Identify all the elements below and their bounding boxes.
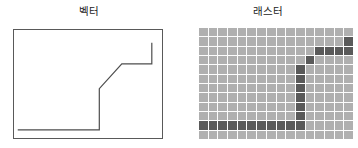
raster-cell-filled bbox=[257, 121, 266, 129]
raster-cell-filled bbox=[199, 121, 208, 129]
raster-cell-empty bbox=[209, 84, 218, 92]
raster-cell-empty bbox=[277, 65, 286, 73]
raster-cell-empty bbox=[277, 112, 286, 120]
raster-cell-empty bbox=[238, 65, 247, 73]
raster-cell-empty bbox=[325, 103, 334, 111]
raster-cell-empty bbox=[257, 131, 266, 139]
raster-cell-empty bbox=[306, 112, 315, 120]
raster-cell-empty bbox=[344, 65, 353, 73]
raster-cell-filled bbox=[315, 47, 324, 55]
raster-cell-empty bbox=[199, 84, 208, 92]
raster-cell-filled bbox=[247, 121, 256, 129]
raster-cell-empty bbox=[296, 56, 305, 64]
raster-cell-empty bbox=[335, 103, 344, 111]
raster-cell-empty bbox=[257, 37, 266, 45]
raster-cell-empty bbox=[257, 84, 266, 92]
raster-cell-empty bbox=[306, 65, 315, 73]
raster-cell-empty bbox=[286, 131, 295, 139]
raster-cell-empty bbox=[209, 75, 218, 83]
raster-cell-empty bbox=[218, 93, 227, 101]
raster-cell-empty bbox=[238, 131, 247, 139]
raster-cell-empty bbox=[325, 93, 334, 101]
raster-cell-empty bbox=[238, 75, 247, 83]
raster-cell-empty bbox=[209, 56, 218, 64]
raster-cell-filled bbox=[296, 65, 305, 73]
raster-cell-filled bbox=[296, 93, 305, 101]
raster-cell-empty bbox=[267, 28, 276, 36]
raster-cell-empty bbox=[218, 75, 227, 83]
raster-cell-empty bbox=[325, 28, 334, 36]
raster-cell-empty bbox=[286, 103, 295, 111]
raster-cell-empty bbox=[209, 112, 218, 120]
raster-cell-filled bbox=[277, 121, 286, 129]
raster-cell-empty bbox=[286, 112, 295, 120]
raster-cell-empty bbox=[325, 112, 334, 120]
raster-cell-filled bbox=[238, 121, 247, 129]
raster-cell-empty bbox=[238, 56, 247, 64]
raster-cell-empty bbox=[199, 28, 208, 36]
raster-cell-empty bbox=[344, 103, 353, 111]
raster-cell-empty bbox=[277, 28, 286, 36]
raster-cell-empty bbox=[325, 75, 334, 83]
raster-cell-empty bbox=[257, 56, 266, 64]
raster-cell-empty bbox=[286, 93, 295, 101]
raster-cell-empty bbox=[247, 84, 256, 92]
raster-cell-empty bbox=[267, 56, 276, 64]
raster-cell-empty bbox=[306, 103, 315, 111]
raster-cell-empty bbox=[335, 93, 344, 101]
raster-cell-empty bbox=[325, 84, 334, 92]
raster-cell-empty bbox=[286, 47, 295, 55]
raster-cell-empty bbox=[315, 75, 324, 83]
raster-cell-empty bbox=[306, 37, 315, 45]
raster-cell-filled bbox=[296, 112, 305, 120]
raster-cell-empty bbox=[228, 28, 237, 36]
raster-cell-empty bbox=[247, 56, 256, 64]
raster-cell-empty bbox=[335, 131, 344, 139]
raster-cell-empty bbox=[257, 65, 266, 73]
raster-cell-empty bbox=[344, 93, 353, 101]
raster-cell-empty bbox=[306, 84, 315, 92]
raster-cell-empty bbox=[267, 131, 276, 139]
raster-cell-filled bbox=[286, 121, 295, 129]
raster-cell-empty bbox=[257, 112, 266, 120]
raster-cell-empty bbox=[209, 37, 218, 45]
raster-cell-empty bbox=[228, 65, 237, 73]
raster-cell-empty bbox=[335, 112, 344, 120]
raster-cell-empty bbox=[247, 37, 256, 45]
raster-cell-empty bbox=[335, 37, 344, 45]
raster-cell-empty bbox=[218, 103, 227, 111]
raster-cell-empty bbox=[277, 103, 286, 111]
raster-cell-empty bbox=[257, 75, 266, 83]
raster-cell-empty bbox=[257, 93, 266, 101]
panel-title-vector: 벡터 bbox=[0, 4, 178, 18]
raster-cell-filled bbox=[306, 56, 315, 64]
raster-cell-empty bbox=[218, 65, 227, 73]
raster-cell-empty bbox=[257, 103, 266, 111]
raster-cell-empty bbox=[209, 93, 218, 101]
raster-cell-empty bbox=[344, 121, 353, 129]
raster-cell-empty bbox=[267, 47, 276, 55]
raster-cell-empty bbox=[209, 65, 218, 73]
raster-cell-empty bbox=[286, 37, 295, 45]
raster-cell-empty bbox=[315, 121, 324, 129]
raster-cell-empty bbox=[199, 37, 208, 45]
raster-cell-empty bbox=[228, 131, 237, 139]
raster-cell-empty bbox=[199, 131, 208, 139]
raster-cell-empty bbox=[267, 37, 276, 45]
raster-cell-empty bbox=[238, 112, 247, 120]
raster-cell-empty bbox=[247, 28, 256, 36]
raster-cell-empty bbox=[267, 93, 276, 101]
raster-cell-filled bbox=[335, 47, 344, 55]
raster-cell-empty bbox=[315, 65, 324, 73]
raster-cell-empty bbox=[286, 28, 295, 36]
raster-cell-empty bbox=[238, 93, 247, 101]
raster-cell-empty bbox=[277, 84, 286, 92]
raster-cell-empty bbox=[277, 37, 286, 45]
raster-cell-empty bbox=[228, 112, 237, 120]
raster-cell-empty bbox=[247, 65, 256, 73]
raster-cell-empty bbox=[286, 56, 295, 64]
raster-cell-filled bbox=[296, 103, 305, 111]
vector-polyline bbox=[18, 43, 152, 130]
raster-cell-empty bbox=[344, 75, 353, 83]
raster-cell-empty bbox=[325, 121, 334, 129]
